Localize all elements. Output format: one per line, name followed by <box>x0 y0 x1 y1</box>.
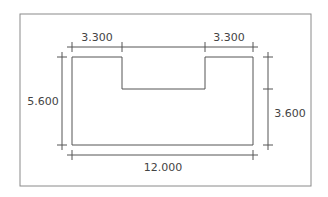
shape-outline <box>72 57 253 145</box>
dimension-label-top-right: 3.300 <box>213 31 245 44</box>
dimension-label-bottom: 12.000 <box>144 161 183 174</box>
dimension-label-top-left: 3.300 <box>81 31 113 44</box>
dimension-label-left: 5.600 <box>27 95 59 108</box>
right-dimension-line <box>263 52 273 150</box>
floor-plan-diagram: 3.300 3.300 5.600 3.600 12.000 <box>0 0 328 197</box>
dimension-label-right: 3.600 <box>274 107 306 120</box>
bottom-dimension-line <box>67 150 258 160</box>
